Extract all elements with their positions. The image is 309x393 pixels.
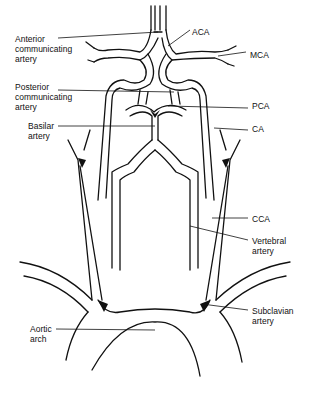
arterial-diagram: Anterior communicating artery ACA MCA Po… <box>0 0 309 393</box>
label-cca: CCA <box>252 214 270 224</box>
label-basilar-artery: Basilar artery <box>28 121 54 141</box>
label-pca: PCA <box>252 101 269 111</box>
label-anterior-communicating-artery: Anterior communicating artery <box>15 34 72 64</box>
label-subclavian-artery: Subclavian artery <box>252 306 294 326</box>
label-ca: CA <box>252 124 264 134</box>
label-aca: ACA <box>192 27 209 37</box>
label-posterior-communicating-artery: Posterior communicating artery <box>15 82 72 112</box>
label-vertebral-artery: Vertebral artery <box>252 236 286 256</box>
label-mca: MCA <box>250 50 269 60</box>
label-aortic-arch: Aortic arch <box>30 324 52 344</box>
